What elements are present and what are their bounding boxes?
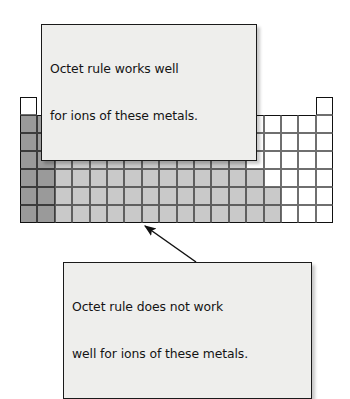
element-cell bbox=[298, 133, 315, 151]
element-cell bbox=[55, 187, 72, 205]
element-cell bbox=[55, 205, 72, 223]
element-cell bbox=[316, 97, 333, 115]
element-cell bbox=[281, 205, 298, 223]
element-cell bbox=[90, 169, 107, 187]
element-cell bbox=[281, 115, 298, 133]
element-cell bbox=[37, 169, 54, 187]
element-cell bbox=[194, 187, 211, 205]
element-cell bbox=[298, 115, 315, 133]
element-cell bbox=[90, 187, 107, 205]
element-cell bbox=[264, 133, 281, 151]
element-cell bbox=[316, 187, 333, 205]
element-cell bbox=[159, 205, 176, 223]
arrow-to-transition-metals bbox=[145, 226, 196, 262]
element-cell bbox=[159, 187, 176, 205]
element-cell bbox=[20, 187, 37, 205]
callout-bottom-line-2: well for ions of these metals. bbox=[72, 346, 303, 362]
element-cell bbox=[159, 169, 176, 187]
element-cell bbox=[211, 169, 228, 187]
element-cell bbox=[298, 151, 315, 169]
callout-bottom-line-1: Octet rule does not work bbox=[72, 299, 303, 315]
element-cell bbox=[20, 133, 37, 151]
element-cell bbox=[264, 187, 281, 205]
element-cell bbox=[124, 169, 141, 187]
element-cell bbox=[20, 169, 37, 187]
element-cell bbox=[142, 205, 159, 223]
element-cell bbox=[298, 169, 315, 187]
octet-does-not-work-callout: Octet rule does not work well for ions o… bbox=[63, 262, 312, 399]
element-cell bbox=[142, 187, 159, 205]
element-cell bbox=[177, 187, 194, 205]
element-cell bbox=[281, 151, 298, 169]
element-cell bbox=[124, 187, 141, 205]
element-cell bbox=[194, 169, 211, 187]
element-cell bbox=[281, 133, 298, 151]
element-cell bbox=[142, 169, 159, 187]
element-cell bbox=[177, 205, 194, 223]
octet-works-callout: Octet rule works well for ions of these … bbox=[41, 24, 257, 161]
element-cell bbox=[72, 205, 89, 223]
element-cell bbox=[20, 115, 37, 133]
element-cell bbox=[316, 205, 333, 223]
callout-top-line-2: for ions of these metals. bbox=[50, 108, 248, 124]
element-cell bbox=[107, 169, 124, 187]
element-cell bbox=[246, 205, 263, 223]
element-cell bbox=[194, 205, 211, 223]
element-cell bbox=[90, 205, 107, 223]
element-cell bbox=[281, 187, 298, 205]
element-cell bbox=[211, 187, 228, 205]
element-cell bbox=[316, 115, 333, 133]
element-cell bbox=[264, 115, 281, 133]
element-cell bbox=[107, 205, 124, 223]
element-cell bbox=[298, 187, 315, 205]
element-cell bbox=[316, 169, 333, 187]
element-cell bbox=[20, 97, 37, 115]
callout-top-line-1: Octet rule works well bbox=[50, 61, 248, 77]
element-cell bbox=[246, 169, 263, 187]
element-cell bbox=[281, 169, 298, 187]
element-cell bbox=[264, 169, 281, 187]
element-cell bbox=[229, 169, 246, 187]
element-cell bbox=[72, 187, 89, 205]
element-cell bbox=[37, 187, 54, 205]
element-cell bbox=[246, 187, 263, 205]
element-cell bbox=[229, 187, 246, 205]
element-cell bbox=[20, 205, 37, 223]
element-cell bbox=[177, 169, 194, 187]
element-cell bbox=[211, 205, 228, 223]
element-cell bbox=[124, 205, 141, 223]
element-cell bbox=[264, 151, 281, 169]
element-cell bbox=[316, 151, 333, 169]
element-cell bbox=[229, 205, 246, 223]
element-cell bbox=[72, 169, 89, 187]
element-cell bbox=[316, 133, 333, 151]
element-cell bbox=[37, 205, 54, 223]
element-cell bbox=[298, 205, 315, 223]
element-cell bbox=[55, 169, 72, 187]
element-cell bbox=[20, 151, 37, 169]
element-cell bbox=[264, 205, 281, 223]
element-cell bbox=[107, 187, 124, 205]
